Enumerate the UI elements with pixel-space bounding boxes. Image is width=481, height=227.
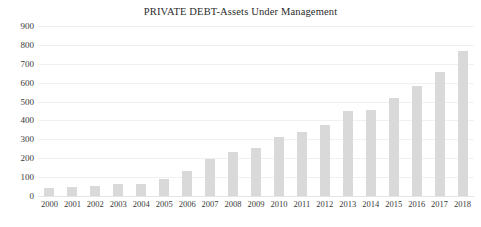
bar: [205, 159, 215, 196]
bar: [366, 110, 376, 196]
x-tick-label: 2018: [451, 199, 474, 209]
x-tick-label: 2012: [313, 199, 336, 209]
y-tick-label: 700: [0, 59, 34, 68]
x-tick-label: 2005: [153, 199, 176, 209]
x-tick-label: 2009: [245, 199, 268, 209]
x-tick-label: 2011: [290, 199, 313, 209]
y-tick-label: 0: [0, 192, 34, 201]
bar: [389, 98, 399, 196]
x-tick-label: 2016: [405, 199, 428, 209]
bar: [90, 186, 100, 196]
x-tick-label: 2015: [382, 199, 405, 209]
bar: [67, 187, 77, 196]
x-tick-label: 2000: [38, 199, 61, 209]
y-tick-label: 900: [0, 22, 34, 31]
bar-chart: PRIVATE DEBT-Assets Under Management 010…: [0, 0, 481, 227]
x-tick-label: 2002: [84, 199, 107, 209]
gridline: [38, 196, 474, 197]
y-tick-label: 500: [0, 97, 34, 106]
x-tick-label: 2010: [267, 199, 290, 209]
bars-layer: [38, 26, 474, 196]
y-tick-label: 100: [0, 173, 34, 182]
bar: [274, 137, 284, 196]
bar: [182, 171, 192, 196]
y-axis: 0100200300400500600700800900: [0, 26, 34, 196]
bar: [320, 125, 330, 196]
x-tick-label: 2007: [199, 199, 222, 209]
y-tick-label: 200: [0, 154, 34, 163]
bar: [44, 188, 54, 196]
y-tick-label: 800: [0, 40, 34, 49]
x-tick-label: 2013: [336, 199, 359, 209]
bar: [113, 184, 123, 196]
bar: [343, 111, 353, 196]
chart-title: PRIVATE DEBT-Assets Under Management: [0, 6, 481, 17]
bar: [251, 148, 261, 196]
y-tick-label: 600: [0, 78, 34, 87]
x-axis: 2000200120022003200420052006200720082009…: [38, 199, 474, 215]
bar: [297, 132, 307, 196]
bar: [159, 179, 169, 196]
bar: [136, 184, 146, 196]
x-tick-label: 2004: [130, 199, 153, 209]
x-tick-label: 2006: [176, 199, 199, 209]
bar: [458, 51, 468, 196]
x-tick-label: 2003: [107, 199, 130, 209]
x-tick-label: 2001: [61, 199, 84, 209]
x-tick-label: 2017: [428, 199, 451, 209]
y-tick-label: 400: [0, 116, 34, 125]
bar: [435, 72, 445, 196]
x-tick-label: 2014: [359, 199, 382, 209]
x-tick-label: 2008: [222, 199, 245, 209]
bar: [412, 86, 422, 197]
bar: [228, 152, 238, 196]
y-tick-label: 300: [0, 135, 34, 144]
